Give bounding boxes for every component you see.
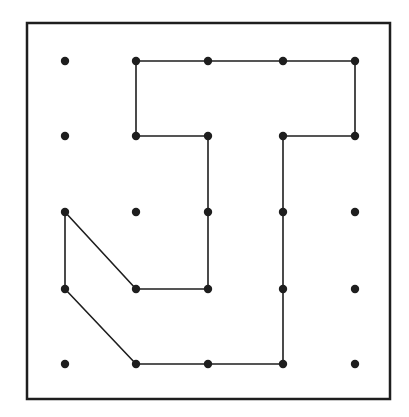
peg-dot-r1-c4 (351, 132, 359, 140)
peg-dot-r3-c4 (351, 285, 359, 293)
peg-dot-r3-c0 (61, 285, 69, 293)
peg-dot-r4-c1 (132, 360, 140, 368)
peg-dot-r1-c2 (204, 132, 212, 140)
geoboard-diagram (0, 0, 409, 417)
peg-dot-r2-c0 (61, 208, 69, 216)
peg-dot-r0-c1 (132, 57, 140, 65)
peg-dot-r0-c3 (279, 57, 287, 65)
peg-grid (61, 57, 359, 368)
peg-dot-r4-c2 (204, 360, 212, 368)
peg-dot-r3-c2 (204, 285, 212, 293)
peg-dot-r0-c0 (61, 57, 69, 65)
peg-dot-r1-c3 (279, 132, 287, 140)
peg-dot-r4-c3 (279, 360, 287, 368)
peg-dot-r0-c2 (204, 57, 212, 65)
peg-dot-r4-c4 (351, 360, 359, 368)
peg-dot-r3-c1 (132, 285, 140, 293)
peg-dot-r2-c2 (204, 208, 212, 216)
peg-dot-r2-c3 (279, 208, 287, 216)
peg-dot-r4-c0 (61, 360, 69, 368)
peg-dot-r1-c1 (132, 132, 140, 140)
peg-dot-r3-c3 (279, 285, 287, 293)
peg-dot-r2-c4 (351, 208, 359, 216)
peg-dot-r1-c0 (61, 132, 69, 140)
peg-dot-r2-c1 (132, 208, 140, 216)
peg-dot-r0-c4 (351, 57, 359, 65)
